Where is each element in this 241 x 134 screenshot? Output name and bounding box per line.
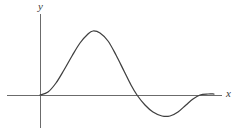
curve-group: [40, 31, 214, 117]
axes-group: [7, 14, 222, 128]
y-axis-label: y: [38, 1, 43, 12]
function-curve: [40, 31, 214, 117]
plot-canvas: [0, 0, 241, 134]
graph-figure: y x: [0, 0, 241, 134]
x-axis-label: x: [226, 88, 231, 99]
